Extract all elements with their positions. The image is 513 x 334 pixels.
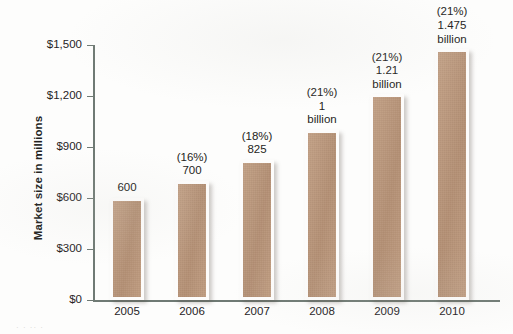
bar-2006	[175, 181, 209, 300]
bar-value-label-2010: (21%) 1.475 billion	[417, 5, 487, 46]
bar-texture	[113, 201, 141, 297]
x-axis-label-2006: 2006	[162, 305, 222, 317]
bar-texture	[438, 52, 466, 297]
x-axis-label-2008: 2008	[292, 305, 352, 317]
y-axis-title: Market size in millions	[32, 93, 44, 263]
y-axis-tick-label: $300	[26, 242, 82, 254]
bar-texture	[373, 97, 401, 297]
bar-texture	[243, 163, 271, 297]
y-axis-tick-label: $600	[26, 191, 82, 203]
bar-value-label-2005: 600	[92, 181, 162, 195]
bar-value-label-2007: (18%) 825	[222, 130, 292, 157]
y-axis-line	[93, 45, 95, 301]
bar-2007	[240, 160, 274, 300]
y-axis-tick-label: $900	[26, 140, 82, 152]
page-caption-fragment: · · ·· ·	[16, 323, 44, 332]
y-axis-tick	[87, 198, 94, 199]
x-axis-label-2007: 2007	[227, 305, 287, 317]
bar-2009	[370, 94, 404, 300]
bar-texture	[178, 184, 206, 297]
bar-chart: Market size in millions $0$300$600$900$1…	[0, 0, 513, 334]
bar-2008	[305, 130, 339, 300]
bar-value-label-2009: (21%) 1.21 billion	[352, 51, 422, 92]
y-axis-tick-label: $0	[26, 293, 82, 305]
y-axis-tick-label: $1,200	[26, 89, 82, 101]
chart-page: Market size in millions $0$300$600$900$1…	[0, 0, 513, 334]
x-axis-label-2005: 2005	[97, 305, 157, 317]
y-axis-tick	[87, 96, 94, 97]
bar-texture	[308, 133, 336, 297]
bar-2010	[435, 49, 469, 300]
x-axis-label-2010: 2010	[422, 305, 482, 317]
y-axis-tick	[87, 300, 94, 301]
bar-2005	[110, 198, 144, 300]
y-axis-tick-label: $1,500	[26, 38, 82, 50]
y-axis-tick	[87, 45, 94, 46]
bar-value-label-2006: (16%) 700	[157, 151, 227, 178]
y-axis-tick	[87, 147, 94, 148]
y-axis-tick	[87, 249, 94, 250]
x-axis-line	[93, 300, 500, 302]
bar-value-label-2008: (21%) 1 billion	[287, 86, 357, 127]
x-axis-label-2009: 2009	[357, 305, 417, 317]
